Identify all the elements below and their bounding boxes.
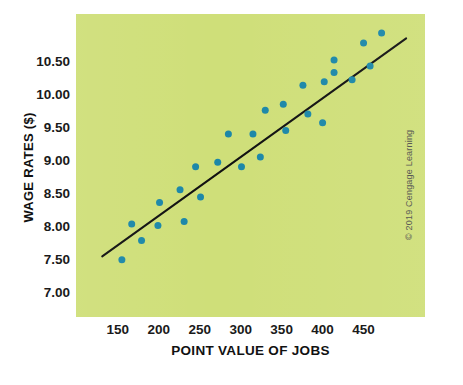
scatter-point xyxy=(282,127,289,134)
x-axis-tick-label: 450 xyxy=(334,322,394,337)
scatter-point xyxy=(331,57,338,64)
y-axis-title: WAGE RATES ($) xyxy=(21,88,36,248)
scatter-point xyxy=(257,153,264,160)
scatter-point xyxy=(156,199,163,206)
scatter-point xyxy=(360,39,367,46)
x-axis-title: POINT VALUE OF JOBS xyxy=(76,343,425,358)
plot-area xyxy=(76,14,425,317)
scatter-point xyxy=(249,130,256,137)
scatter-point xyxy=(225,130,232,137)
y-axis-tick-label: 10.50 xyxy=(6,54,70,69)
scatter-point xyxy=(192,163,199,170)
scatter-point xyxy=(319,119,326,126)
y-axis-tick-label: 9.00 xyxy=(6,153,70,168)
scatter-point xyxy=(321,78,328,85)
y-axis-tick-label: 7.00 xyxy=(6,284,70,299)
trend-line-group xyxy=(102,38,406,256)
y-axis-tick-label: 8.00 xyxy=(6,219,70,234)
scatter-point xyxy=(262,107,269,114)
scatter-point xyxy=(197,194,204,201)
scatter-point xyxy=(118,256,125,263)
scatter-point xyxy=(304,111,311,118)
scatter-point xyxy=(181,218,188,225)
scatter-point xyxy=(154,222,161,229)
trend-line xyxy=(102,38,406,256)
scatter-point-group xyxy=(118,30,385,264)
scatter-point xyxy=(378,30,385,37)
scatter-point xyxy=(128,221,135,228)
scatter-point xyxy=(299,82,306,89)
scatter-point xyxy=(238,163,245,170)
scatter-point xyxy=(331,69,338,76)
scatter-point xyxy=(138,237,145,244)
plot-svg-layer xyxy=(76,14,425,317)
copyright-credit: © 2019 Cengage Learning xyxy=(404,110,414,240)
y-axis-tick-label: 10.00 xyxy=(6,87,70,102)
figure-scatter-wage-rates: 7.007.508.008.509.009.5010.0010.50 15020… xyxy=(0,0,463,385)
y-axis-tick-label: 9.50 xyxy=(6,120,70,135)
scatter-point xyxy=(177,186,184,193)
scatter-point xyxy=(367,63,374,70)
y-axis-tick-label: 7.50 xyxy=(6,252,70,267)
scatter-point xyxy=(349,76,356,83)
scatter-point xyxy=(214,159,221,166)
scatter-point xyxy=(280,101,287,108)
y-axis-tick-label: 8.50 xyxy=(6,186,70,201)
